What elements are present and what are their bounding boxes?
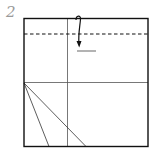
diagonal-crease-shallow xyxy=(24,83,86,147)
diagonal-crease-steep xyxy=(24,83,49,147)
fold-arrow-icon xyxy=(76,16,82,47)
fold-diagram xyxy=(0,0,153,150)
